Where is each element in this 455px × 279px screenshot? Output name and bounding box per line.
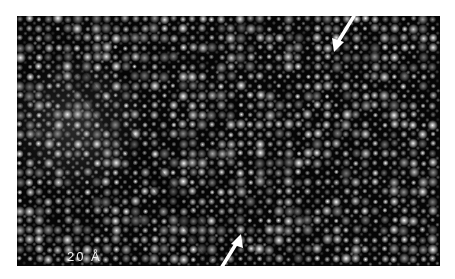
arrow-icon-bottom [214,226,254,274]
scale-bar-label: 20 Å [67,249,102,264]
arrow-icon-top-right [320,12,360,60]
